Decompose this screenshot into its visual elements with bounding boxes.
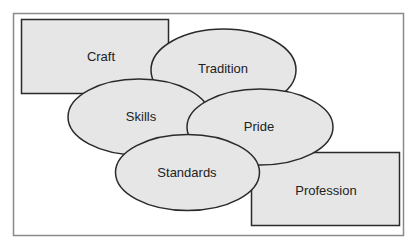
standards-label: Standards bbox=[157, 165, 217, 180]
node-standards: Standards bbox=[116, 135, 260, 211]
pride-label: Pride bbox=[244, 119, 274, 134]
tradition-label: Tradition bbox=[198, 61, 248, 76]
craft-to-profession-diagram: Craft Profession Tradition Skills Pride … bbox=[0, 0, 417, 246]
skills-label: Skills bbox=[126, 109, 157, 124]
profession-label: Profession bbox=[295, 183, 356, 198]
craft-label: Craft bbox=[87, 49, 116, 64]
